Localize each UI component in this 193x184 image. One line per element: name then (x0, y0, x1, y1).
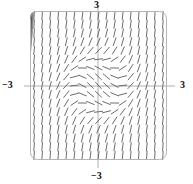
slope-field-plot (0, 0, 193, 184)
axis-label-left: −3 (2, 80, 13, 90)
axis-label-top: 3 (94, 0, 99, 10)
figure-container: 3 −3 −3 3 (0, 0, 193, 184)
direction-field-dashes (34, 11, 164, 160)
axis-label-right: 3 (180, 80, 185, 90)
axis-label-bottom: −3 (91, 171, 102, 181)
